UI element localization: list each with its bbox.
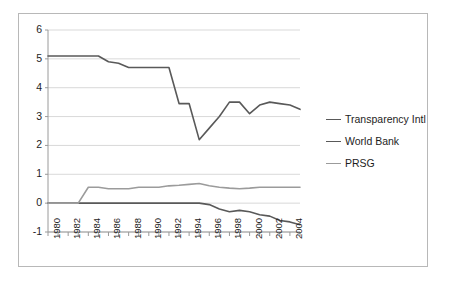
- x-axis-tick-label: 1980: [52, 218, 61, 239]
- x-axis-tick-label: 1982: [72, 218, 81, 239]
- x-axis-tick-label: 1990: [153, 218, 162, 239]
- x-axis-tick-label: 2002: [274, 218, 283, 239]
- legend-label: PRSG: [345, 157, 375, 169]
- y-axis-tick-label: 0: [20, 197, 42, 207]
- y-axis-tick-label: 3: [20, 111, 42, 121]
- chart-legend: Transparency IntlWorld BankPRSG: [326, 108, 426, 174]
- legend-label: World Bank: [345, 135, 399, 147]
- data-series-lines: [48, 56, 300, 225]
- x-axis-tick-label: 1988: [133, 218, 142, 239]
- legend-item: PRSG: [326, 152, 426, 174]
- y-axis-tick-label: 4: [20, 82, 42, 92]
- gridlines: [48, 30, 300, 232]
- x-axis-tick-label: 1992: [173, 218, 182, 239]
- series-line-transparency-intl: [48, 56, 300, 140]
- legend-item: Transparency Intl: [326, 108, 426, 130]
- x-axis-tick-label: 2000: [254, 218, 263, 239]
- x-axis-tick-label: 1998: [233, 218, 242, 239]
- x-axis-tick-label: 1994: [193, 218, 202, 239]
- x-axis-tick-label: 1996: [213, 218, 222, 239]
- legend-line-swatch: [326, 141, 341, 142]
- x-axis-tick-label: 1984: [92, 218, 101, 239]
- legend-label: Transparency Intl: [345, 113, 426, 125]
- y-axis-tick-label: -1: [20, 226, 42, 236]
- y-axis-tick-label: 2: [20, 139, 42, 149]
- x-axis-tick-label: 2004: [294, 218, 303, 239]
- y-axis-tick-label: 1: [20, 168, 42, 178]
- legend-line-swatch: [326, 119, 341, 120]
- y-axis-tick-label: 5: [20, 53, 42, 63]
- legend-line-swatch: [326, 163, 341, 164]
- x-axis-tick-label: 1986: [112, 218, 121, 239]
- y-axis-tick-label: 6: [20, 24, 42, 34]
- series-line-prsg: [48, 184, 300, 204]
- legend-item: World Bank: [326, 130, 426, 152]
